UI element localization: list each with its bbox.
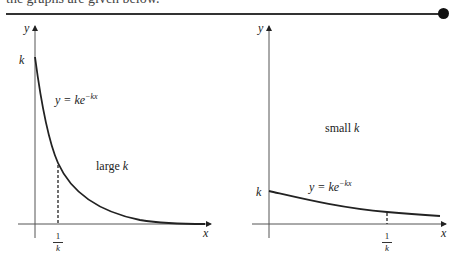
left-y-axis-label: y — [24, 22, 29, 34]
figure-graphs — [0, 0, 459, 256]
right-y-axis-label: y — [258, 22, 263, 34]
right-curve — [269, 191, 440, 216]
left-equation: y = ke−kx — [55, 93, 98, 106]
left-graph — [18, 26, 211, 238]
right-k-label: k — [256, 186, 261, 198]
right-equation: y = ke−kx — [309, 180, 352, 193]
right-tick-one-over-k: 1k — [382, 232, 392, 253]
left-k-label: k — [19, 54, 24, 66]
left-annotation: large k — [96, 160, 128, 172]
left-tick-one-over-k: 1k — [53, 232, 63, 253]
right-x-axis-label: x — [441, 227, 446, 239]
left-x-axis-label: x — [203, 227, 208, 239]
right-annotation: small k — [325, 122, 359, 134]
left-curve — [35, 57, 205, 224]
